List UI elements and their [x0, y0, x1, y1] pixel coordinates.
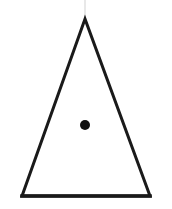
- interior-dot: [80, 120, 90, 130]
- background-rect: [0, 0, 172, 209]
- figure-canvas: [0, 0, 172, 209]
- triangle-figure-svg: [0, 0, 172, 209]
